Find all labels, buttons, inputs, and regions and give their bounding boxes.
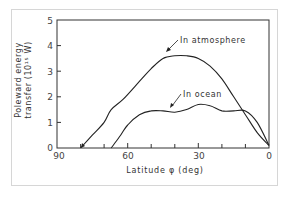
svg-text:30: 30 — [193, 151, 205, 161]
y-axis-label-line2: transfer (10¹⁵ W) — [24, 30, 34, 130]
x-axis-ticks — [81, 143, 246, 148]
svg-text:3: 3 — [47, 67, 53, 77]
svg-text:In ocean: In ocean — [183, 90, 222, 99]
x-axis-label: Latitude φ (deg) — [100, 166, 230, 175]
y-axis-label-line1: Poleward energy — [14, 30, 24, 130]
svg-text:0: 0 — [266, 151, 272, 161]
atmosphere-annotation: In atmosphere — [166, 36, 246, 52]
svg-text:0: 0 — [47, 143, 53, 153]
svg-text:5: 5 — [47, 16, 53, 26]
x-axis-tick-labels: 90 60 30 0 — [53, 151, 272, 161]
svg-text:2: 2 — [47, 92, 53, 102]
y-axis-label: Poleward energy transfer (10¹⁵ W) — [14, 30, 44, 130]
svg-text:In atmosphere: In atmosphere — [180, 36, 246, 45]
svg-text:90: 90 — [53, 151, 65, 161]
svg-text:1: 1 — [47, 118, 53, 128]
ocean-curve — [111, 104, 269, 148]
y-axis-ticks — [57, 46, 61, 123]
svg-text:60: 60 — [122, 151, 134, 161]
y-axis-tick-labels: 0 1 2 3 4 5 — [47, 16, 53, 154]
svg-text:4: 4 — [47, 41, 53, 51]
